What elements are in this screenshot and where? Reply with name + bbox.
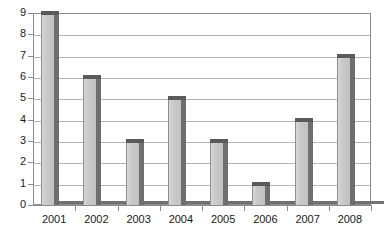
x-tick-label-2001: 2001 [33,213,75,225]
gridline [34,35,370,36]
y-tick-mark [28,162,33,163]
x-tick-mark [75,206,76,211]
bar-top [83,75,101,79]
plot-area [33,13,371,205]
y-tick-label: 2 [2,156,26,167]
x-tick-label-2005: 2005 [202,213,244,225]
y-tick-mark [28,34,33,35]
bar-face [83,78,96,206]
y-tick-label: 9 [2,7,26,18]
bar-2005 [210,139,228,206]
bar-face [168,99,181,206]
bar-face [295,121,308,206]
x-tick-mark [202,206,203,211]
bar-top [337,54,355,58]
bar-2007 [295,118,313,206]
y-tick-label: 3 [2,135,26,146]
bar-top [252,182,270,186]
y-axis-line [33,13,34,206]
bar-side [139,142,144,206]
baseline-shadow [355,201,384,204]
bar-2004 [168,96,186,206]
bar-top [41,11,59,15]
y-tick-label: 4 [2,114,26,125]
bar-side [54,14,59,206]
bar-face [337,57,350,206]
x-tick-mark [118,206,119,211]
x-tick-label-2004: 2004 [160,213,202,225]
y-tick-mark [28,98,33,99]
bar-side [96,78,101,206]
y-tick-mark [28,13,33,14]
y-tick-mark [28,56,33,57]
bar-side [223,142,228,206]
y-tick-mark [28,184,33,185]
bar-2001 [41,11,59,206]
x-tick-mark [287,206,288,211]
x-tick-mark [371,206,372,211]
x-tick-label-2002: 2002 [75,213,117,225]
bar-top [210,139,228,143]
x-tick-mark [244,206,245,211]
bar-2003 [126,139,144,206]
bar-top [126,139,144,143]
y-tick-mark [28,141,33,142]
y-tick-mark [28,120,33,121]
x-tick-label-2008: 2008 [329,213,371,225]
x-tick-label-2003: 2003 [118,213,160,225]
bar-face [126,142,139,206]
gridline [34,57,370,58]
bar-face [210,142,223,206]
y-tick-label: 6 [2,71,26,82]
y-tick-label: 8 [2,28,26,39]
y-tick-mark [28,77,33,78]
bar-2008 [337,54,355,206]
bar-top [168,96,186,100]
y-tick-label: 1 [2,178,26,189]
x-tick-mark [160,206,161,211]
bar-2002 [83,75,101,206]
y-tick-label: 5 [2,92,26,103]
y-axis-labels: 0123456789 [0,0,26,235]
x-tick-mark [329,206,330,211]
bar-face [41,14,54,206]
y-tick-label: 7 [2,50,26,61]
bar-2006 [252,182,270,206]
y-tick-label: 0 [2,199,26,210]
x-tick-label-2006: 2006 [244,213,286,225]
bar-side [350,57,355,206]
bar-face [252,185,265,206]
bar-chart: 0123456789 20012002200320042005200620072… [0,0,391,235]
bar-side [308,121,313,206]
x-tick-label-2007: 2007 [287,213,329,225]
bar-top [295,118,313,122]
bar-side [181,99,186,206]
